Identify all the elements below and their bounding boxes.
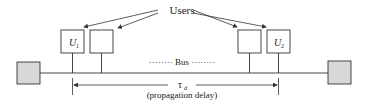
user-box-u1: U 1 [61, 30, 84, 73]
svg-text:2: 2 [281, 43, 284, 49]
user-box-u2: U 2 [267, 30, 290, 73]
bus-label: ········ Bus ········ [149, 57, 215, 67]
users-arrow-user2 [118, 13, 158, 28]
users-arrow-u1 [84, 10, 158, 27]
bus-network-diagram: Users U 1 U 2 ········ Bus ········ τ d … [0, 0, 367, 105]
user-box-2 [90, 30, 113, 73]
terminator-left [17, 62, 40, 84]
terminator-right [328, 61, 351, 84]
svg-text:1: 1 [76, 43, 79, 49]
user-box-3 [238, 30, 261, 73]
users-label: Users [169, 4, 194, 16]
propagation-delay-label: (propagation delay) [147, 90, 218, 100]
users-arrow-user3 [193, 10, 237, 27]
users-arrow-u2 [193, 13, 266, 27]
tau-label: τ [178, 79, 182, 90]
